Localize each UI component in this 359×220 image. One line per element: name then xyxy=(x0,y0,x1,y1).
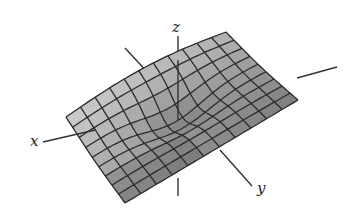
y-axis-label: y xyxy=(257,181,265,196)
surface-figure: z x y xyxy=(0,0,359,220)
x-axis-label: x xyxy=(30,134,38,149)
z-axis-label: z xyxy=(172,20,180,35)
axis-right-stub xyxy=(297,67,337,78)
mesh-surface xyxy=(66,32,298,203)
y-axis-line xyxy=(220,150,252,186)
